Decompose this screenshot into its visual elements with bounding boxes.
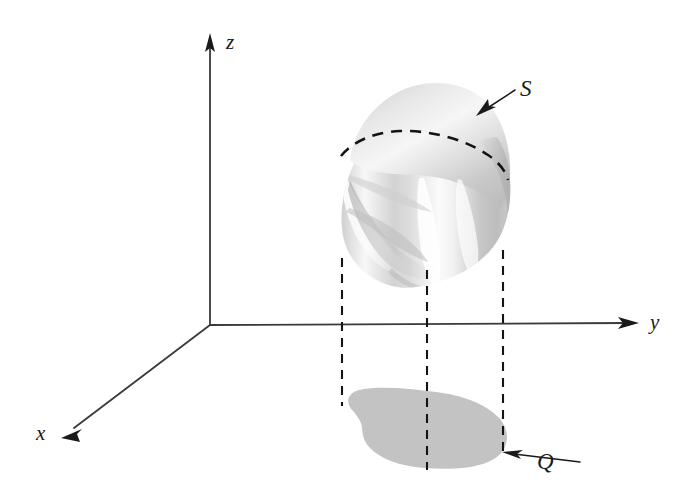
region-q-label: Q — [537, 449, 554, 474]
z-axis-label: z — [225, 30, 234, 54]
x-axis-arrow-icon — [61, 429, 82, 442]
s-pointer-line — [486, 90, 515, 109]
figure-canvas: z y x S Q — [0, 0, 698, 493]
geometry-figure: z y x S Q — [0, 0, 698, 493]
x-axis-label: x — [35, 421, 46, 445]
y-axis-label: y — [648, 310, 660, 334]
y-axis-line — [210, 323, 625, 325]
x-axis-line — [74, 325, 210, 428]
surface-s-label: S — [520, 76, 532, 101]
surface-s — [341, 83, 514, 292]
